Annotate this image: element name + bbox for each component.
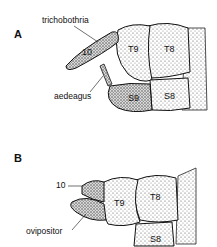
panel-a-male-abdomen: A trichobothria aedeagus 10 T9 T8 S9 S8 bbox=[0, 0, 217, 124]
callout-10: 10 bbox=[56, 180, 65, 190]
segment-label-10: 10 bbox=[82, 47, 92, 57]
panel-letter-a: A bbox=[14, 28, 22, 40]
segment-label-t8: T8 bbox=[164, 44, 175, 54]
segment-label-s9: S9 bbox=[128, 93, 139, 103]
segment-label-t8: T8 bbox=[150, 192, 161, 202]
segment-label-t9: T9 bbox=[114, 198, 125, 208]
segment-label-s8: S8 bbox=[164, 91, 175, 101]
segment-label-s8: S8 bbox=[150, 234, 161, 244]
callout-ovipositor: ovipositor bbox=[26, 226, 62, 236]
callout-aedeagus: aedeagus bbox=[54, 91, 91, 101]
panel-letter-b: B bbox=[14, 152, 22, 164]
segment-label-t9: T9 bbox=[128, 44, 139, 54]
panel-b-female-abdomen: B 10 ovipositor T9 T8 S8 bbox=[0, 124, 217, 247]
male-abdomen-illustration bbox=[0, 0, 217, 124]
callout-trichobothria: trichobothria bbox=[42, 15, 89, 25]
